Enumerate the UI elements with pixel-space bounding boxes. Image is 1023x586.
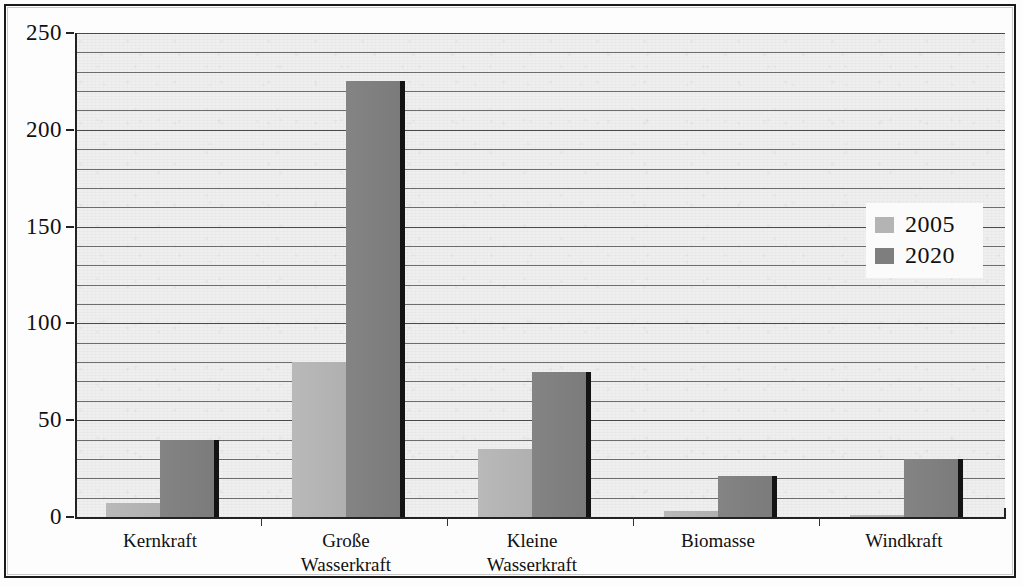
y-axis-tick bbox=[66, 226, 74, 228]
x-axis-tick bbox=[447, 517, 448, 526]
y-axis-tick-label: 100 bbox=[26, 310, 62, 336]
legend-item-2020: 2020 bbox=[875, 240, 973, 271]
y-axis-tick bbox=[66, 32, 74, 34]
category-label-3: Biomasse bbox=[681, 529, 755, 553]
category-label-1: Große Wasserkraft bbox=[301, 529, 391, 578]
gridline-minor bbox=[75, 91, 1005, 92]
y-axis-tick bbox=[66, 322, 74, 324]
y-axis-labels: 050100150200250 bbox=[0, 0, 62, 586]
gridline-minor bbox=[75, 110, 1005, 111]
bar-shadow-1 bbox=[400, 81, 405, 517]
y-axis-tick bbox=[66, 516, 74, 518]
y-axis-tick-label: 200 bbox=[26, 117, 62, 143]
gridline-minor bbox=[75, 285, 1005, 286]
legend-swatch-2005 bbox=[875, 217, 894, 233]
x-axis-tick bbox=[819, 517, 820, 526]
bar-2005-0 bbox=[106, 503, 160, 517]
gridline-minor bbox=[75, 169, 1005, 170]
y-axis-tick bbox=[66, 419, 74, 421]
x-axis-line bbox=[75, 517, 1006, 519]
bar-2020-1 bbox=[346, 81, 400, 517]
gridline-major bbox=[75, 33, 1005, 34]
y-axis-tick-label: 50 bbox=[38, 407, 62, 433]
y-axis-line bbox=[75, 33, 77, 518]
bar-2005-1 bbox=[292, 362, 346, 517]
chart-figure: 050100150200250 KernkraftGroße Wasserkra… bbox=[0, 0, 1023, 586]
bar-2020-3 bbox=[718, 476, 772, 517]
category-label-2: Kleine Wasserkraft bbox=[487, 529, 577, 578]
y-axis-tick bbox=[66, 129, 74, 131]
gridline-minor bbox=[75, 188, 1005, 189]
bar-shadow-0 bbox=[214, 440, 219, 517]
gridline-minor bbox=[75, 149, 1005, 150]
gridline-minor bbox=[75, 304, 1005, 305]
y-axis-tick-label: 250 bbox=[26, 20, 62, 46]
legend-swatch-2020 bbox=[875, 248, 894, 264]
legend-label-2005: 2005 bbox=[905, 211, 955, 238]
bar-2020-0 bbox=[160, 440, 214, 517]
x-axis-right-cap bbox=[1004, 508, 1006, 519]
gridline-minor bbox=[75, 72, 1005, 73]
bar-2005-2 bbox=[478, 449, 532, 517]
chart-legend: 20052020 bbox=[866, 203, 983, 278]
bar-2020-2 bbox=[532, 372, 586, 517]
bar-shadow-3 bbox=[772, 476, 777, 517]
legend-item-2005: 2005 bbox=[875, 209, 973, 240]
gridline-minor bbox=[75, 362, 1005, 363]
bar-2020-4 bbox=[904, 459, 958, 517]
x-axis-tick bbox=[261, 517, 262, 526]
gridline-minor bbox=[75, 343, 1005, 344]
category-label-0: Kernkraft bbox=[123, 529, 197, 553]
category-label-4: Windkraft bbox=[865, 529, 942, 553]
y-axis-tick-label: 150 bbox=[26, 214, 62, 240]
legend-label-2020: 2020 bbox=[905, 242, 955, 269]
gridline-major bbox=[75, 130, 1005, 131]
x-axis-tick bbox=[633, 517, 634, 526]
bar-shadow-4 bbox=[958, 459, 963, 517]
y-axis-tick-label: 0 bbox=[50, 504, 62, 530]
gridline-minor bbox=[75, 52, 1005, 53]
bar-shadow-2 bbox=[586, 372, 591, 517]
gridline-major bbox=[75, 323, 1005, 324]
